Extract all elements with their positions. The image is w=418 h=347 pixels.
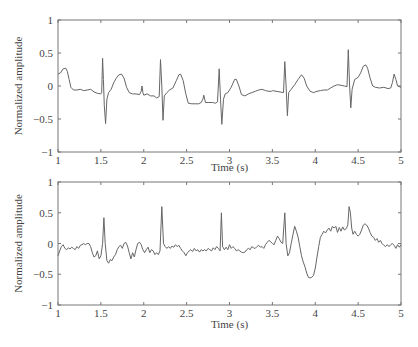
top-ecg-trace: [58, 50, 401, 125]
x-tick-label: 1.5: [94, 307, 108, 319]
x-tick-label: 3.5: [266, 307, 280, 319]
x-tick-label: 4: [313, 307, 319, 319]
x-tick-label: 1: [55, 307, 61, 319]
y-tick-label: −0.5: [33, 113, 53, 125]
y-tick-label: −1: [41, 146, 53, 158]
x-tick-label: 2: [141, 307, 147, 319]
y-tick-label: 1: [48, 176, 54, 188]
bottom-ticks: [58, 182, 401, 305]
y-tick-label: 1: [48, 14, 54, 26]
bottom-tick-labels: 11.522.533.544.5510.50−0.5−1: [33, 176, 404, 319]
x-tick-label: 2.5: [180, 307, 194, 319]
y-tick-label: −1: [41, 299, 53, 311]
y-tick-label: −0.5: [33, 268, 53, 280]
top-xlabel: Time (s): [211, 161, 249, 174]
x-tick-label: 4.5: [351, 307, 365, 319]
bottom-ylabel: Normalized amplitude: [12, 194, 24, 293]
y-tick-label: 0.5: [39, 47, 53, 59]
top-ylabel: Normalized amplitude: [12, 37, 24, 136]
x-tick-label: 2: [141, 154, 147, 166]
x-tick-label: 4: [313, 154, 319, 166]
y-tick-label: 0: [48, 238, 54, 250]
x-tick-label: 5: [398, 307, 404, 319]
bottom-panel: 11.522.533.544.5510.50−0.5−1 Time (s) No…: [12, 176, 404, 331]
ecg-figure: 11.522.533.544.5510.50−0.5−1 Time (s) No…: [0, 0, 418, 347]
x-tick-label: 1.5: [94, 154, 108, 166]
y-tick-label: 0.5: [39, 207, 53, 219]
x-tick-label: 4.5: [351, 154, 365, 166]
bottom-xlabel: Time (s): [211, 318, 249, 331]
bottom-plot-frame: [58, 182, 401, 305]
x-tick-label: 1: [55, 154, 61, 166]
x-tick-label: 3.5: [266, 154, 280, 166]
y-tick-label: 0: [48, 80, 54, 92]
top-panel: 11.522.533.544.5510.50−0.5−1 Time (s) No…: [12, 14, 404, 174]
x-tick-label: 5: [398, 154, 404, 166]
bottom-ecg-trace: [58, 207, 401, 278]
x-tick-label: 2.5: [180, 154, 194, 166]
